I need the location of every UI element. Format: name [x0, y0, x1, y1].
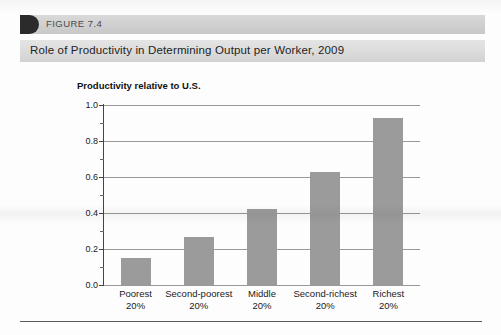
y-tick-major: [99, 285, 104, 286]
y-tick-minor: [100, 231, 104, 232]
y-axis-title: Productivity relative to U.S.: [77, 80, 201, 91]
y-tick-major: [99, 141, 104, 142]
y-axis-label-0.8: 0.8: [72, 137, 98, 146]
y-axis-label-0.4: 0.4: [72, 209, 98, 218]
bar: [121, 258, 151, 285]
page-bottom-rule: [20, 321, 482, 322]
y-tick-major: [99, 177, 104, 178]
y-tick-major: [99, 213, 104, 214]
y-tick-major: [99, 249, 104, 250]
y-tick-minor: [100, 267, 104, 268]
y-axis-label-0.2: 0.2: [72, 245, 98, 254]
x-axis-label-line1: Middle: [248, 288, 276, 299]
y-tick-minor: [100, 123, 104, 124]
gridline-0.0: [104, 285, 420, 286]
x-axis-label-line1: Poorest: [119, 288, 152, 299]
bar: [247, 209, 277, 285]
x-axis-label-line2: 20%: [345, 300, 432, 312]
bar: [184, 237, 214, 285]
gridline-1.0: [104, 105, 420, 106]
y-axis-label-0.6: 0.6: [72, 173, 98, 182]
bar-chart: Productivity relative to U.S. 1.00.80.60…: [0, 0, 501, 335]
x-axis-tick-labels: Poorest20%Second-poorest20%Middle20%Seco…: [104, 288, 420, 318]
y-tick-major: [99, 105, 104, 106]
bar: [373, 118, 403, 285]
plot-area: [104, 105, 420, 285]
bar: [310, 172, 340, 285]
figure-page: FIGURE 7.4 Role of Productivity in Deter…: [0, 0, 501, 335]
y-axis-tick-labels: 1.00.80.60.40.20.0: [72, 105, 98, 286]
y-tick-minor: [100, 159, 104, 160]
x-axis-label-line1: Richest: [373, 288, 405, 299]
x-axis-label: Richest20%: [345, 288, 432, 312]
y-axis-label-1.0: 1.0: [72, 101, 98, 110]
y-tick-minor: [100, 195, 104, 196]
